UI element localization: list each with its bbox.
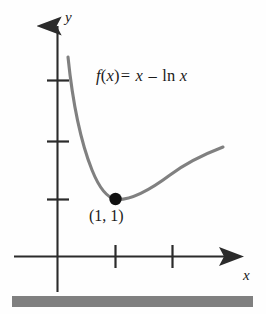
function-equation-equals: = xyxy=(120,66,132,85)
x-axis-label: x xyxy=(243,268,250,283)
minimum-point-label: (1, 1) xyxy=(89,208,124,224)
bottom-gray-bar xyxy=(12,296,253,307)
graph-plot xyxy=(0,0,266,314)
function-equation-label: f(x)= x – ln x xyxy=(96,68,187,85)
function-equation-close-paren: ) xyxy=(114,66,120,85)
y-axis-label: y xyxy=(65,10,72,25)
function-equation-x: x xyxy=(136,66,144,85)
function-equation-ln-argument: x xyxy=(180,66,188,85)
function-equation-minus: – xyxy=(147,66,157,85)
minimum-point-marker xyxy=(109,193,121,205)
function-equation-ln: ln xyxy=(162,66,175,85)
figure-container: y x f(x)= x – ln x (1, 1) xyxy=(0,0,266,314)
function-equation-argument: x xyxy=(107,66,115,85)
